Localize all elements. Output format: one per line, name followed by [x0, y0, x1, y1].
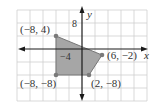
y-axis-arrow-up-icon [80, 6, 85, 13]
vertex-point [54, 34, 59, 39]
tick-label-y8: 8 [72, 18, 77, 29]
vertex-point [100, 53, 105, 58]
tick-label-x-neg4: −4 [60, 51, 71, 62]
y-axis-arrow-down-icon [80, 94, 85, 101]
vertex-label-neg8-4: (−8, 4) [20, 23, 50, 36]
coordinate-plane: y x 8 −4 (−8, 4) (6, −2) (2, −8) (−8, −8… [0, 0, 154, 106]
x-axis-arrow-left-icon [18, 47, 25, 52]
vertex-label-2-neg8: (2, −8) [91, 77, 121, 90]
x-axis-label: x [143, 49, 149, 61]
y-axis-label: y [86, 8, 92, 20]
vertex-label-6-neg2: (6, −2) [107, 49, 137, 62]
vertex-label-neg8-neg8: (−8, −8) [20, 77, 57, 90]
